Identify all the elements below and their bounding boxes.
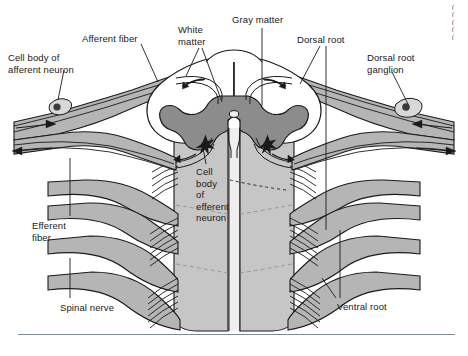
label-ventral-root: Ventral root — [337, 301, 387, 313]
label-cell-body-efferent-neuron: Cell body of efferent neuron — [196, 166, 229, 224]
label-dorsal-root-ganglion: Dorsal root ganglion — [367, 52, 415, 75]
label-efferent-fiber: Efferent fiber — [32, 220, 66, 243]
source-credit-clipped: ( ( ( ( ( — [452, 4, 468, 41]
spinal-cord-figure: Cell body of afferent neuron Afferent fi… — [0, 0, 468, 356]
spinal-cord-trunk — [174, 128, 294, 331]
label-dorsal-root: Dorsal root — [297, 34, 345, 46]
label-white-matter: White matter — [178, 24, 206, 47]
footer-rule — [18, 334, 455, 335]
label-afferent-fiber: Afferent fiber — [82, 33, 138, 45]
label-cell-body-afferent-neuron: Cell body of afferent neuron — [8, 52, 74, 75]
label-gray-matter: Gray matter — [232, 14, 283, 26]
label-spinal-nerve: Spinal nerve — [60, 302, 114, 314]
